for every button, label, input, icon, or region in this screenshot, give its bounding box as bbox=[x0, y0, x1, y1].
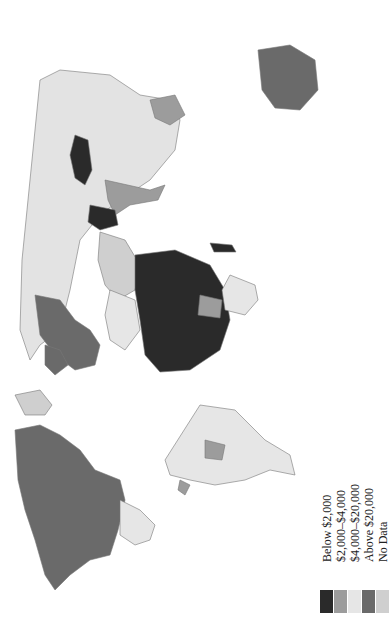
legend-swatch-below-2000 bbox=[320, 590, 333, 613]
region-south-america bbox=[165, 405, 295, 485]
map-legend: Below $2,000 $2,000–$4,000 $4,000–$20,00… bbox=[318, 470, 378, 620]
legend-label-below-2000: Below $2,000 bbox=[320, 495, 335, 562]
legend-swatch-no-data bbox=[376, 590, 389, 613]
region-greenland bbox=[15, 390, 52, 415]
legend-label-2000-4000: $2,000–$4,000 bbox=[334, 490, 349, 562]
legend-swatch-2000-4000 bbox=[334, 590, 347, 613]
legend-label-4000-20000: $4,000–$20,000 bbox=[348, 484, 363, 562]
legend-label-above-20000: Above $20,000 bbox=[362, 488, 377, 562]
region-australia bbox=[258, 45, 318, 110]
region-north-africa bbox=[105, 290, 140, 350]
region-north-america bbox=[15, 425, 125, 590]
legend-label-no-data: No Data bbox=[376, 522, 391, 562]
region-south-america-gray-2 bbox=[178, 480, 190, 495]
region-central-america bbox=[120, 500, 155, 545]
region-southern-africa bbox=[222, 275, 258, 315]
region-madagascar bbox=[210, 243, 236, 252]
region-middle-east bbox=[98, 232, 140, 300]
legend-swatch-above-20000 bbox=[362, 590, 375, 613]
legend-swatch-4000-20000 bbox=[348, 590, 361, 613]
